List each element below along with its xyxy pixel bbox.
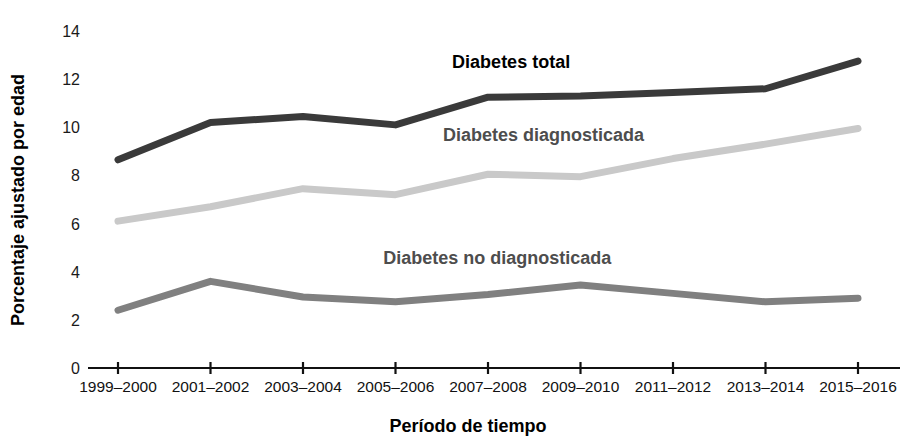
x-tick-label: 2007–2008 bbox=[449, 378, 527, 395]
y-tick-label: 14 bbox=[62, 23, 80, 40]
x-tick-label: 2013–2014 bbox=[727, 378, 805, 395]
y-axis-tick-labels: 02468101214 bbox=[62, 23, 80, 377]
chart-container: 02468101214 1999–20002001–20022003–20042… bbox=[0, 0, 912, 443]
series-label: Diabetes total bbox=[452, 52, 570, 72]
x-tick-label: 2011–2012 bbox=[635, 378, 711, 395]
series-lines bbox=[118, 61, 858, 310]
y-tick-label: 2 bbox=[71, 312, 80, 329]
axis-lines bbox=[88, 362, 900, 374]
x-tick-label: 2003–2004 bbox=[264, 378, 342, 395]
x-tick-label: 1999–2000 bbox=[79, 378, 157, 395]
y-tick-label: 12 bbox=[62, 71, 80, 88]
y-tick-label: 10 bbox=[62, 119, 80, 136]
series-label: Diabetes no diagnosticada bbox=[383, 248, 612, 268]
x-tick-label: 2009–2010 bbox=[542, 378, 620, 395]
x-tick-label: 2015–2016 bbox=[819, 378, 897, 395]
line-chart: 02468101214 1999–20002001–20022003–20042… bbox=[0, 0, 912, 443]
series-annotations: Diabetes totalDiabetes diagnosticadaDiab… bbox=[383, 52, 645, 268]
y-tick-label: 6 bbox=[71, 216, 80, 233]
y-tick-label: 0 bbox=[71, 360, 80, 377]
series-line bbox=[118, 281, 858, 310]
x-tick-label: 2001–2002 bbox=[172, 378, 250, 395]
x-axis-tick-labels: 1999–20002001–20022003–20042005–20062007… bbox=[79, 378, 897, 395]
x-tick-label: 2005–2006 bbox=[357, 378, 435, 395]
x-axis-title: Período de tiempo bbox=[389, 416, 546, 436]
series-label: Diabetes diagnosticada bbox=[443, 125, 645, 145]
y-tick-label: 4 bbox=[71, 264, 80, 281]
y-axis-title: Porcentaje ajustado por edad bbox=[8, 74, 28, 326]
y-tick-label: 8 bbox=[71, 167, 80, 184]
